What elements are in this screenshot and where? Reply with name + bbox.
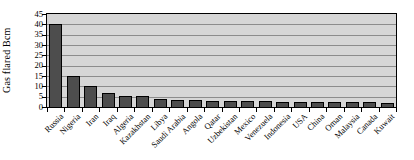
x-tick-mark-19 (379, 108, 380, 112)
x-tick-mark-4 (117, 108, 118, 112)
bar-iraq (102, 93, 115, 107)
bar-canada (363, 102, 376, 107)
gridline-5 (47, 97, 396, 98)
bar-venezuela (259, 101, 272, 107)
gridline-30 (47, 45, 396, 46)
x-tick-mark-13 (274, 108, 275, 112)
gridline-20 (47, 66, 396, 67)
bar-angola (189, 100, 202, 107)
bar-oman (328, 102, 341, 107)
bar-kazakhstan (136, 96, 149, 107)
x-tick-mark-2 (82, 108, 83, 112)
x-tick-mark-14 (291, 108, 292, 112)
y-tick-mark-25 (42, 55, 46, 56)
y-tick-label-40: 40 (17, 20, 43, 29)
gridline-35 (47, 35, 396, 36)
bar-malaysia (346, 102, 359, 107)
y-tick-label-20: 20 (17, 61, 43, 70)
y-tick-mark-40 (42, 24, 46, 25)
bar-qatar (206, 101, 219, 107)
gridline-10 (47, 86, 396, 87)
y-tick-label-45: 45 (17, 10, 43, 19)
y-tick-label-10: 10 (17, 82, 43, 91)
x-tick-mark-18 (361, 108, 362, 112)
x-tick-mark-5 (134, 108, 135, 112)
x-tick-mark-8 (187, 108, 188, 112)
bar-iran (84, 86, 97, 107)
x-tick-mark-15 (309, 108, 310, 112)
bar-saudi-arabia (171, 100, 184, 107)
y-tick-label-15: 15 (17, 72, 43, 81)
x-tick-mark-1 (64, 108, 65, 112)
bar-indonesia (276, 102, 289, 107)
gridline-40 (47, 24, 396, 25)
y-tick-label-5: 5 (17, 92, 43, 101)
x-tick-mark-3 (99, 108, 100, 112)
y-tick-mark-10 (42, 86, 46, 87)
y-tick-mark-15 (42, 76, 46, 77)
plot-area (46, 13, 397, 108)
bar-usa (294, 102, 307, 107)
y-tick-label-35: 35 (17, 30, 43, 39)
x-tick-mark-9 (204, 108, 205, 112)
x-tick-mark-6 (152, 108, 153, 112)
gridline-25 (47, 55, 396, 56)
y-tick-label-30: 30 (17, 41, 43, 50)
y-tick-mark-45 (42, 14, 46, 15)
x-tick-mark-10 (222, 108, 223, 112)
x-tick-mark-17 (344, 108, 345, 112)
x-tick-mark-20 (396, 108, 397, 112)
bar-china (311, 102, 324, 107)
bar-nigeria (67, 76, 80, 107)
bar-russia (49, 24, 62, 107)
y-tick-mark-0 (42, 107, 46, 108)
x-tick-mark-11 (239, 108, 240, 112)
y-tick-mark-20 (42, 66, 46, 67)
y-tick-mark-30 (42, 45, 46, 46)
bar-algeria (119, 96, 132, 107)
bar-mexico (241, 101, 254, 107)
gridline-15 (47, 76, 396, 77)
x-tick-mark-0 (47, 108, 48, 112)
x-tick-mark-7 (169, 108, 170, 112)
y-tick-mark-35 (42, 35, 46, 36)
bar-uzbekistan (224, 101, 237, 107)
gas-flaring-bar-chart: Gas flared Bcm 051015202530354045RussiaN… (0, 0, 414, 160)
bar-kuwait (381, 103, 394, 107)
x-tick-mark-12 (256, 108, 257, 112)
y-tick-mark-5 (42, 97, 46, 98)
bar-libya (154, 99, 167, 107)
y-axis-title: Gas flared Bcm (1, 13, 14, 108)
x-tick-mark-16 (326, 108, 327, 112)
y-tick-label-0: 0 (17, 103, 43, 112)
y-tick-label-25: 25 (17, 51, 43, 60)
